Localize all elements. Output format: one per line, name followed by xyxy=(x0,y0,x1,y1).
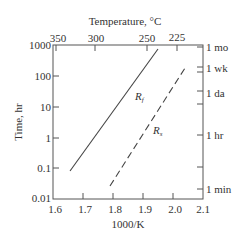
top-axis-label: Temperature, °C xyxy=(89,15,162,27)
y-tick-label: 10 xyxy=(40,101,52,113)
top-ticks xyxy=(56,45,177,51)
top-tick-labels: 350 300 250 225 xyxy=(50,31,186,44)
y-tick-labels: 1000 100 10 1 0.1 0.01 xyxy=(29,39,52,204)
series-rs-line xyxy=(110,68,185,186)
right-tick-label: 1 min xyxy=(206,183,232,195)
x-tick-label: 1.9 xyxy=(138,203,152,215)
x-tick-label: 2.1 xyxy=(196,203,210,215)
top-tick-label: 350 xyxy=(50,32,67,44)
plot-frame xyxy=(53,45,203,199)
right-tick-label: 1 wk xyxy=(206,62,228,74)
x-ticks xyxy=(83,193,173,199)
x-tick-label: 1.7 xyxy=(78,203,92,215)
series-rs-label: Rs xyxy=(152,124,163,138)
x-tick-label: 2.0 xyxy=(168,203,182,215)
y-ticks xyxy=(53,76,59,168)
x-tick-label: 1.6 xyxy=(48,203,62,215)
right-tick-label: 1 da xyxy=(206,87,225,99)
right-ticks xyxy=(197,47,203,189)
chart: 1.6 1.7 1.8 1.9 2.0 2.1 1000/K 1000 100 … xyxy=(0,0,248,237)
y-tick-label: 0.01 xyxy=(32,192,51,204)
y-tick-label: 1 xyxy=(46,132,52,144)
y-tick-label: 100 xyxy=(35,70,52,82)
x-axis-label: 1000/K xyxy=(112,218,145,230)
x-tick-labels: 1.6 1.7 1.8 1.9 2.0 2.1 xyxy=(48,203,210,215)
y-tick-label: 1000 xyxy=(29,39,52,51)
right-tick-label: 1 mo xyxy=(206,41,229,53)
y-axis-label: Time, hr xyxy=(12,103,24,141)
right-tick-labels: 1 mo 1 wk 1 da 1 hr 1 min xyxy=(206,41,232,195)
x-tick-label: 1.8 xyxy=(108,203,122,215)
y-tick-label: 0.1 xyxy=(37,162,51,174)
top-tick-label: 300 xyxy=(88,32,105,44)
top-tick-label: 225 xyxy=(169,31,186,43)
top-tick-label: 250 xyxy=(139,32,156,44)
series-rf-line xyxy=(70,49,158,171)
right-tick-label: 1 hr xyxy=(206,129,224,141)
series-rf-label: Rf xyxy=(134,90,145,104)
